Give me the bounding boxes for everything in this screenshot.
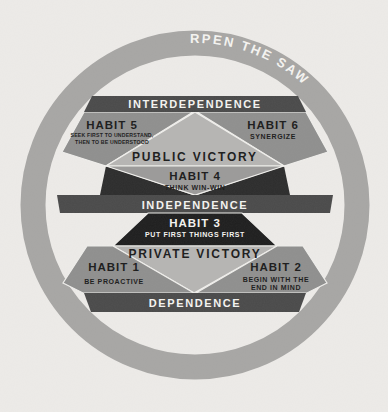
dependence-label: DEPENDENCE [149,297,241,309]
habit-6-subtitle: SYNERGIZE [250,133,296,140]
public-victory-label: PUBLIC VICTORY [132,150,258,164]
habit-4-title: HABIT 4 [169,170,221,182]
habit-2-subtitle-line1: BEGIN WITH THE [243,276,309,283]
private-victory-label: PRIVATE VICTORY [128,247,261,261]
interdependence-label: INTERDEPENDENCE [128,98,261,110]
habit-6-title: HABIT 6 [247,119,299,131]
habit-1-subtitle: BE PROACTIVE [84,278,144,285]
habit-2-subtitle-line2: END IN MIND [251,284,301,291]
habit-5-title: HABIT 5 [86,119,138,131]
independence-label: INDEPENDENCE [142,199,249,211]
habit-1-title: HABIT 1 [88,261,140,273]
habit-4-subtitle: THINK WIN-WIN [165,184,226,191]
habit-5-subtitle-line1: SEEK FIRST TO UNDERSTAND, [71,132,154,138]
habit-3-title: HABIT 3 [169,217,221,229]
habit-5-subtitle-line2: THEN TO BE UNDERSTOOD [75,139,149,145]
habit-3-subtitle: PUT FIRST THINGS FIRST [145,231,245,238]
seven-habits-maturity-diagram: HABIT 7 SHARPEN THE SAW INTERDEPENDENCE … [0,0,388,412]
habit-2-title: HABIT 2 [250,261,302,273]
